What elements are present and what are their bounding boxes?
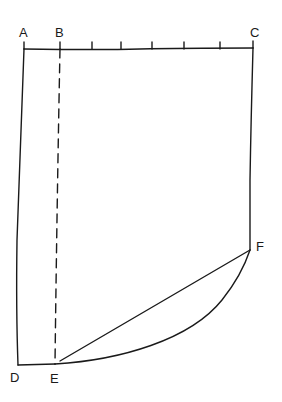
bottom-edge — [18, 364, 55, 365]
point-label-d: D — [10, 370, 19, 385]
point-label-f: F — [256, 239, 264, 254]
top-edge — [24, 48, 253, 50]
point-label-e: E — [50, 371, 59, 386]
pattern-diagram: A B C D E F — [0, 0, 282, 402]
left-edge — [17, 49, 24, 365]
dashed-guide-line — [55, 49, 60, 364]
point-label-a: A — [19, 25, 28, 40]
point-label-c: C — [250, 25, 259, 40]
point-label-b: B — [55, 25, 64, 40]
right-edge — [250, 48, 253, 250]
